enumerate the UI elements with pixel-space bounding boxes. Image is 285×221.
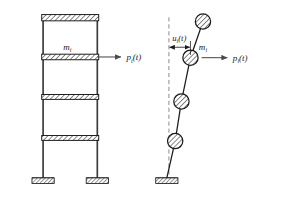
model-force-label: pi(t) — [232, 53, 248, 64]
mass-2 — [174, 94, 189, 109]
displacement-label: ui(t) — [172, 33, 186, 44]
displacement-label-argument: (t) — [178, 33, 186, 43]
figure-canvas: mi pi(t) — [0, 0, 285, 221]
frame-force-label: pi(t) — [126, 52, 142, 63]
fixed-base-support — [156, 178, 178, 184]
floor-beam-2 — [42, 95, 99, 100]
lumped-mass-stick-model: ui(t) mi pi(t) — [156, 14, 248, 184]
floor-beam-1 — [42, 136, 99, 141]
mass-1 — [168, 133, 183, 148]
right-fixed-support — [86, 178, 108, 184]
frame-mass-label-subscript: i — [70, 47, 72, 53]
multistory-frame: mi pi(t) — [32, 15, 141, 184]
frame-mass-label: mi — [63, 42, 72, 53]
mass-4-top — [195, 14, 210, 29]
model-force-label-argument: (t) — [239, 53, 248, 63]
frame-supports — [32, 178, 108, 184]
frame-force-arrow-group: pi(t) — [97, 52, 141, 63]
left-fixed-support — [32, 178, 54, 184]
model-mass-label: mi — [199, 42, 208, 53]
frame-floor-beams — [42, 15, 99, 141]
model-force-arrow-group: pi(t) — [202, 53, 248, 64]
structural-dynamics-figure: mi pi(t) — [0, 0, 285, 221]
model-mass-label-subscript: i — [205, 47, 207, 53]
frame-force-label-argument: (t) — [133, 52, 142, 62]
floor-beam-3 — [42, 54, 99, 60]
roof-beam — [42, 15, 99, 21]
